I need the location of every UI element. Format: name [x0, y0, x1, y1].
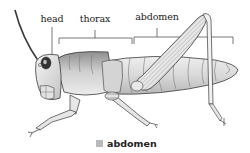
grasshopper-diagram: head thorax abdomen abdomen	[0, 0, 250, 153]
legend-swatch	[96, 140, 103, 147]
legend: abdomen	[96, 139, 157, 149]
label-head: head	[40, 14, 63, 24]
thorax-bracket	[59, 38, 132, 44]
middle-leg-joint	[105, 92, 119, 100]
label-abdomen: abdomen	[135, 12, 179, 22]
grasshopper-illustration	[0, 0, 250, 153]
antenna	[15, 10, 39, 62]
legend-label: abdomen	[107, 139, 157, 149]
thorax-body	[58, 52, 110, 95]
label-brackets	[52, 27, 233, 56]
label-thorax: thorax	[80, 14, 111, 24]
